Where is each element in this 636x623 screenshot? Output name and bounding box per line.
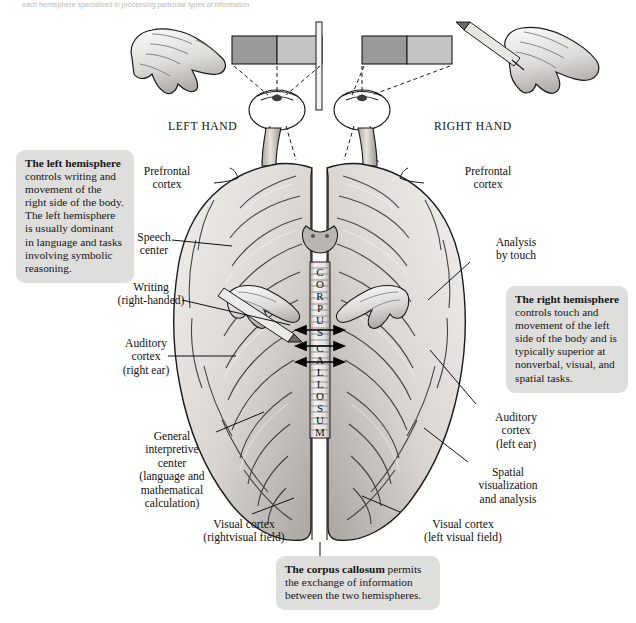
svg-text:R: R	[316, 290, 324, 302]
eye-right	[334, 90, 390, 130]
callout-left-title: The left hemisphere	[25, 157, 121, 169]
optic-nerve-left	[262, 128, 281, 166]
label-line: Spatial	[456, 466, 560, 479]
left-hand-label: LEFT HAND	[168, 120, 237, 133]
svg-text:U: U	[316, 314, 324, 326]
label-auditory-cortex-left-ear: Auditory cortex (left ear)	[470, 411, 562, 451]
svg-text:L: L	[317, 378, 324, 390]
svg-text:O: O	[316, 390, 324, 402]
callout-right-title: The right hemisphere	[515, 293, 619, 305]
right-hand-illustration	[456, 22, 599, 93]
label-line: General	[118, 430, 226, 443]
brain-hemisphere-right	[327, 164, 465, 541]
svg-text:L: L	[317, 366, 324, 378]
label-line: cortex	[98, 350, 194, 363]
eye-left	[249, 90, 305, 130]
label-line: mathematical	[118, 484, 226, 497]
label-line: (left visual field)	[398, 531, 528, 544]
svg-text:S: S	[317, 402, 323, 414]
svg-text:S: S	[317, 326, 323, 338]
label-writing-right-handed: Writing (right-handed)	[96, 281, 206, 308]
label-analysis-by-touch: Analysis by touch	[470, 236, 562, 263]
label-line: cortex	[440, 178, 536, 191]
svg-text:C: C	[316, 266, 323, 278]
label-line: calculation)	[118, 497, 226, 510]
label-general-interpretive-center: General interpretive center (language an…	[118, 430, 226, 510]
label-line: (language and	[118, 470, 226, 483]
label-line: visualization	[456, 479, 560, 492]
svg-text:M: M	[315, 426, 325, 438]
visual-field-panel-right	[362, 36, 452, 64]
label-line: and analysis	[456, 493, 560, 506]
svg-text:P: P	[317, 302, 323, 314]
callout-corpus-callosum: The corpus callosum permits the exchange…	[276, 556, 440, 610]
figure-canvas: each hemisphere specialized in processin…	[0, 0, 636, 623]
label-line: cortex	[470, 424, 562, 437]
label-line: Analysis	[470, 236, 562, 249]
label-auditory-cortex-right-ear: Auditory cortex (right ear)	[98, 337, 194, 377]
label-line: Visual cortex	[182, 518, 306, 531]
label-visual-cortex-left-visual-field: Visual cortex (left visual field)	[398, 518, 528, 545]
label-line: (rightvisual field)	[182, 531, 306, 544]
label-line: center	[118, 457, 226, 470]
label-line: (left ear)	[470, 438, 562, 451]
label-line: Visual cortex	[398, 518, 528, 531]
callout-bottom-title: The corpus callosum	[285, 563, 385, 575]
fixation-divider-bar	[316, 22, 322, 110]
label-line: by touch	[470, 249, 562, 262]
svg-text:O: O	[316, 278, 324, 290]
label-line: Prefrontal	[440, 165, 536, 178]
label-line: Auditory	[98, 337, 194, 350]
visual-field-panel-left	[232, 36, 322, 64]
label-visual-cortex-right-visual-field: Visual cortex (rightvisual field)	[182, 518, 306, 545]
label-spatial-visualization-and-analysis: Spatial visualization and analysis	[456, 466, 560, 506]
svg-text:U: U	[316, 414, 324, 426]
callout-left-body: controls writing and movement of the rig…	[25, 170, 124, 274]
svg-text:A: A	[316, 354, 324, 366]
label-line: (right ear)	[98, 364, 194, 377]
right-hand-label: RIGHT HAND	[434, 120, 512, 133]
label-line: interpretive	[118, 443, 226, 456]
left-hand-illustration	[131, 29, 225, 94]
callout-left-hemisphere: The left hemisphere controls writing and…	[16, 150, 134, 283]
label-line: Writing	[96, 281, 206, 294]
callout-right-hemisphere: The right hemisphere controls touch and …	[506, 286, 628, 393]
svg-text:C: C	[316, 342, 323, 354]
label-line: Auditory	[470, 411, 562, 424]
label-line: (right-handed)	[96, 294, 206, 307]
callout-right-body: controls touch and movement of the left …	[515, 306, 617, 383]
label-prefrontal-cortex-right: Prefrontal cortex	[440, 165, 536, 192]
optic-nerve-right	[358, 128, 377, 166]
